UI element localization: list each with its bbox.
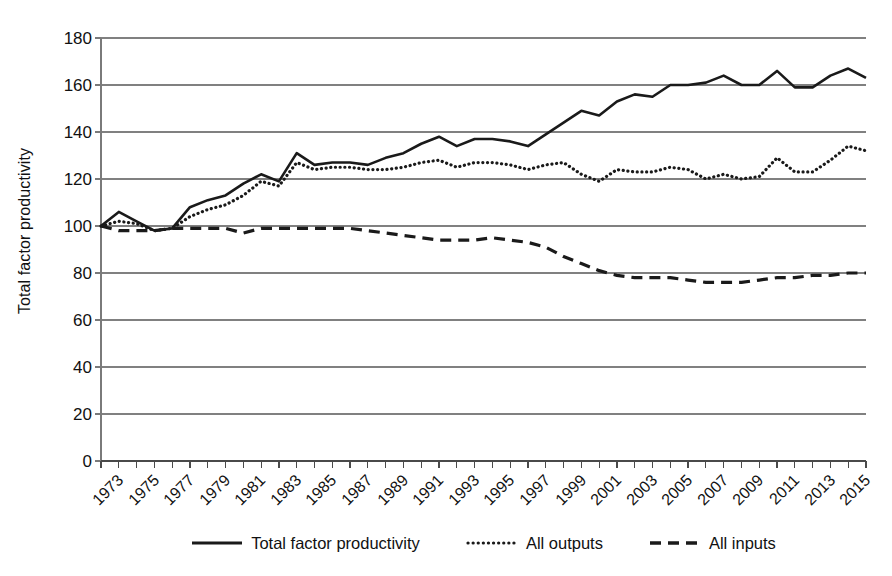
x-axis-tick-labels: 1973197519771979198119831985198719891991… [0,0,892,576]
dotted-line-icon [466,537,518,549]
legend-item-label: All inputs [709,535,776,551]
legend-item-label: All outputs [526,535,603,551]
legend-item[interactable]: All outputs [466,535,603,551]
dashed-line-icon [649,537,701,549]
legend-item[interactable]: All inputs [649,535,776,551]
total-factor-productivity-chart: Total factor productivity 02040608010012… [0,0,892,576]
chart-legend: Total factor productivityAll outputsAll … [101,528,866,558]
legend-item-label: Total factor productivity [251,535,420,551]
solid-line-icon [191,537,243,549]
legend-item[interactable]: Total factor productivity [191,535,420,551]
